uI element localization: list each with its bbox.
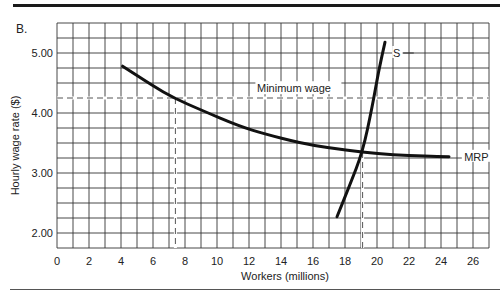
svg-text:14: 14 bbox=[275, 255, 287, 267]
svg-text:5.00: 5.00 bbox=[32, 47, 53, 59]
svg-text:4: 4 bbox=[118, 255, 124, 267]
svg-text:0: 0 bbox=[54, 255, 60, 267]
svg-text:18: 18 bbox=[339, 255, 351, 267]
svg-text:16: 16 bbox=[307, 255, 319, 267]
x-axis-ticks: 02468101214161820222426 bbox=[54, 255, 479, 267]
supply-label: S bbox=[393, 47, 400, 59]
mrp-label: MRP bbox=[464, 151, 488, 163]
svg-text:2.00: 2.00 bbox=[32, 227, 53, 239]
bottom-rule bbox=[10, 289, 500, 290]
labor-market-chart: SMRPMinimum wage024681012141618202224262… bbox=[0, 0, 502, 298]
svg-text:20: 20 bbox=[371, 255, 383, 267]
svg-text:22: 22 bbox=[403, 255, 415, 267]
y-axis-ticks: 2.003.004.005.00 bbox=[32, 47, 53, 239]
svg-text:24: 24 bbox=[435, 255, 447, 267]
svg-text:8: 8 bbox=[182, 255, 188, 267]
svg-text:6: 6 bbox=[150, 255, 156, 267]
svg-text:26: 26 bbox=[467, 255, 479, 267]
svg-text:3.00: 3.00 bbox=[32, 167, 53, 179]
svg-text:10: 10 bbox=[211, 255, 223, 267]
y-axis-title: Hourly wage rate ($) bbox=[9, 96, 21, 196]
svg-text:4.00: 4.00 bbox=[32, 107, 53, 119]
svg-text:2: 2 bbox=[86, 255, 92, 267]
svg-text:12: 12 bbox=[243, 255, 255, 267]
minimum-wage-label: Minimum wage bbox=[257, 82, 331, 94]
x-axis-title: Workers (millions) bbox=[241, 270, 329, 282]
